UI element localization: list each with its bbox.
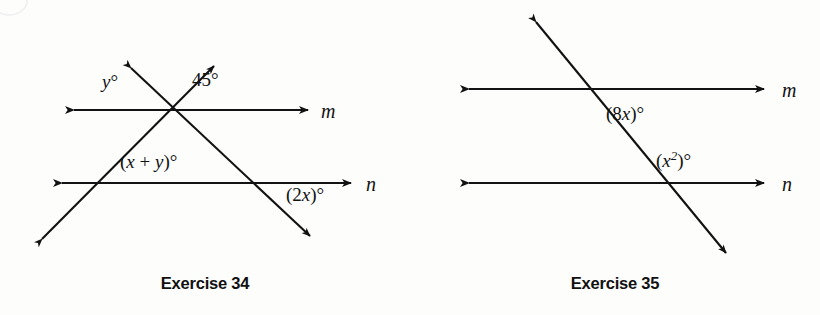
angle-label-45: 45° [192,70,219,89]
angle-label-x-squared: (x2)° [656,150,691,170]
diagram-exercise-34 [0,0,410,280]
line-label-m: m [321,101,335,121]
geometry-worksheet-page: y° 45° (x + y)° (2x)° m n Exercise 34 [0,0,820,315]
diagram-exercise-35 [410,0,820,280]
caption-exercise-35: Exercise 35 [410,274,820,293]
transversal [536,22,726,253]
figure-exercise-34: y° 45° (x + y)° (2x)° m n Exercise 34 [0,0,410,315]
angle-label-x-plus-y: (x + y)° [120,152,177,171]
line-label-m: m [782,80,796,100]
angle-label-2x: (2x)° [286,185,324,204]
line-label-n: n [366,174,376,194]
angle-label-8x: (8x)° [606,104,644,123]
angle-label-y: y° [102,72,118,91]
caption-exercise-34: Exercise 34 [0,274,410,293]
figure-exercise-35: (8x)° (x2)° m n Exercise 35 [410,0,820,315]
line-label-n: n [782,174,792,194]
